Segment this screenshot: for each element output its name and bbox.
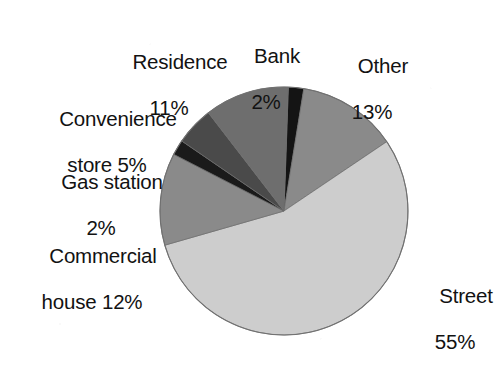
slice-label-street: Street 55%: [414, 262, 496, 368]
slice-label-commercial-house: Commercial house 12%: [12, 222, 172, 360]
slice-label-other-name: Other: [358, 54, 408, 77]
slice-label-bank-value: 2%: [229, 91, 303, 114]
slice-label-residence-name: Residence: [132, 50, 227, 73]
slice-label-gas-station-name: Gas station: [61, 170, 163, 193]
slice-label-street-value: 55%: [414, 331, 496, 354]
slice-label-street-name: Street: [439, 284, 493, 307]
slice-label-convenience-store-name: Convenience: [59, 107, 176, 130]
slice-label-commercial-house-value: house 12%: [12, 291, 172, 314]
slice-label-bank: Bank 2%: [229, 22, 303, 160]
slice-label-other-value: 13%: [332, 101, 412, 124]
slice-label-bank-name: Bank: [254, 44, 300, 67]
pie-chart-figure: Residence 11% Bank 2% Other 13% Convenie…: [0, 0, 501, 368]
slice-label-other: Other 13%: [332, 32, 412, 170]
slice-label-commercial-house-name: Commercial: [49, 244, 156, 267]
